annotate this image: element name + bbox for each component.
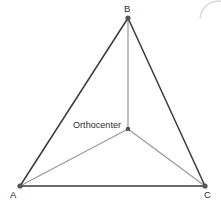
corner-arc-artifact	[200, 1, 221, 18]
vertex-marker-c	[202, 183, 207, 188]
orthocenter-point-marker	[126, 127, 131, 132]
triangle-side-bc	[128, 18, 205, 186]
altitude-segment-a-to-orthocenter	[20, 129, 128, 186]
vertex-label-b: B	[124, 4, 130, 14]
triangle-side-ab	[20, 18, 128, 186]
vertex-label-a: A	[10, 190, 16, 200]
vertex-marker-b	[125, 15, 130, 20]
geometry-canvas	[0, 0, 221, 204]
orthocenter-label: Orthocenter	[73, 121, 121, 130]
vertex-label-c: C	[204, 190, 211, 200]
vertex-marker-a	[17, 183, 22, 188]
altitude-segment-c-to-orthocenter	[128, 129, 205, 186]
orthocenter-figure: B A C Orthocenter	[0, 0, 221, 204]
